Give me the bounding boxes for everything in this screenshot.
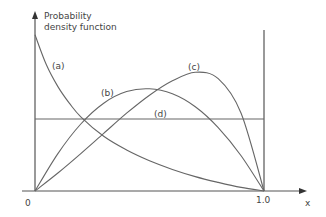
curve-b-label: (b) (101, 88, 114, 98)
x-axis-label: x (305, 198, 311, 208)
curves-group (35, 35, 264, 191)
curve-a (35, 35, 264, 191)
y-axis-label-line2: density function (44, 22, 117, 32)
x-axis-arrow-icon (299, 188, 307, 194)
curve-c (35, 72, 264, 191)
y-axis-arrow-icon (32, 11, 38, 19)
origin-label: 0 (25, 198, 31, 208)
curve-a-label: (a) (52, 61, 65, 71)
x-tick-1-label: 1.0 (256, 195, 271, 205)
pdf-chart: Probability density function 0 1.0 x (a)… (0, 0, 326, 217)
y-axis-label-line1: Probability (44, 11, 92, 21)
curve-d-label: (d) (154, 109, 167, 119)
curve-c-label: (c) (188, 62, 200, 72)
